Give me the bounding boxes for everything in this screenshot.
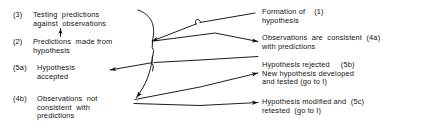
connector-consistent-to-accepted-b xyxy=(110,63,152,70)
node-4b-body: Observations not consistent with predict… xyxy=(37,95,97,121)
connector-formation-to-predictions xyxy=(200,13,255,23)
node-5a-body: Hypothesis accepted xyxy=(37,64,75,81)
node-5c-text: Hypothesis modified and xyxy=(262,97,346,106)
node-5b-line-3: and tested (go to I) xyxy=(262,78,355,87)
node-1-tag: (1) xyxy=(314,7,323,16)
node-5c-tag: (5c) xyxy=(351,97,364,106)
node-5b-tag: (5b) xyxy=(341,60,355,69)
node-4b-tag: (4b) xyxy=(13,95,37,104)
node-5c-line-2: retested (go to I) xyxy=(262,107,364,116)
node-4b-observations-not-consistent: (4b) Observations not consistent with pr… xyxy=(13,95,97,121)
node-5b-hypothesis-rejected: Hypothesis rejected (5b) New hypothesis … xyxy=(262,61,355,87)
node-4b-line-3: predictions xyxy=(37,112,97,121)
node-1-text: Formation of xyxy=(262,7,305,16)
node-2-predictions-made: (2) Predictions made from hypothesis xyxy=(13,38,112,55)
line-hop-bubble xyxy=(195,19,200,24)
node-3-tag: (3) xyxy=(13,11,33,20)
node-4a-tag: (4a) xyxy=(367,33,381,42)
fan-spine-lower xyxy=(152,57,154,72)
node-4a-line-2: with predictions xyxy=(262,43,380,52)
node-2-body: Predictions made from hypothesis xyxy=(33,38,112,55)
fan-curve-to-not-consistent xyxy=(137,56,153,98)
connector-testing-to-fan xyxy=(138,10,154,41)
connector-testing-to-consistent xyxy=(154,33,259,42)
connector-not-consistent-to-modified xyxy=(134,103,258,106)
node-5b-text: Hypothesis rejected xyxy=(262,60,330,69)
node-5c-hypothesis-modified: Hypothesis modified and (5c) retested (g… xyxy=(262,98,364,115)
connector-not-consistent-to-rejected xyxy=(135,73,258,100)
node-3-body: Testing predictions against observations xyxy=(33,11,106,28)
node-3-testing-predictions: (3) Testing predictions against observat… xyxy=(13,11,106,28)
node-4a-text: Observations are consistent xyxy=(262,33,362,42)
node-1-line-2: hypothesis xyxy=(262,17,324,26)
node-3-line-2: against observations xyxy=(33,20,106,29)
connector-consistent-to-accepted xyxy=(154,57,258,63)
connector-formation-to-predictions-b xyxy=(152,24,197,41)
node-1-formation-of-hypothesis: Formation of (1) hypothesis xyxy=(262,8,324,25)
node-4a-observations-consistent: Observations are consistent (4a) with pr… xyxy=(262,34,380,51)
node-2-tag: (2) xyxy=(13,38,33,47)
node-5a-hypothesis-accepted: (5a) Hypothesis accepted xyxy=(13,64,75,81)
node-5a-line-2: accepted xyxy=(37,73,75,82)
fan-spine-upper xyxy=(152,41,153,57)
scientific-method-diagram: (3) Testing predictions against observat… xyxy=(0,0,426,133)
node-5a-tag: (5a) xyxy=(13,64,37,73)
node-2-line-2: hypothesis xyxy=(33,47,112,56)
